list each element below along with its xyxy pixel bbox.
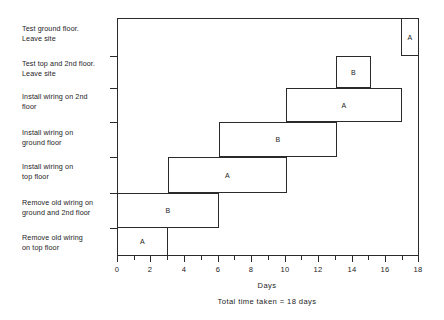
gantt-bar-label: B bbox=[276, 136, 281, 143]
x-tick-6 bbox=[218, 256, 219, 262]
task-label-test-ground-floor: Test ground floor. Leave site bbox=[22, 24, 118, 43]
row-tick-2 bbox=[110, 122, 118, 123]
x-tick-label-10: 10 bbox=[275, 265, 295, 274]
x-tick-label-16: 16 bbox=[375, 265, 395, 274]
x-tick-label-6: 6 bbox=[208, 265, 228, 274]
x-tick-label-14: 14 bbox=[342, 265, 362, 274]
x-tick-4 bbox=[184, 256, 185, 262]
gantt-bar-row6-A[interactable]: A bbox=[117, 228, 168, 256]
gantt-bar-row2-A[interactable]: A bbox=[286, 88, 402, 122]
task-label-install-wiring-2nd-floor: Install wiring on 2nd floor bbox=[22, 92, 118, 111]
x-tick-18 bbox=[418, 256, 419, 262]
gantt-bar-label: A bbox=[140, 238, 145, 245]
x-tick-minor-3 bbox=[167, 256, 168, 260]
x-tick-label-18: 18 bbox=[408, 265, 428, 274]
gantt-bar-label: B bbox=[166, 207, 171, 214]
x-tick-minor-11 bbox=[301, 256, 302, 260]
gantt-bar-row0-A[interactable]: A bbox=[401, 18, 419, 56]
x-tick-12 bbox=[318, 256, 319, 262]
x-tick-minor-9 bbox=[268, 256, 269, 260]
x-tick-16 bbox=[385, 256, 386, 262]
x-tick-label-4: 4 bbox=[174, 265, 194, 274]
task-label-install-wiring-ground-floor: Install wiring on ground floor bbox=[22, 128, 118, 147]
gantt-bar-label: A bbox=[342, 102, 347, 109]
x-axis-title: Days bbox=[237, 281, 297, 290]
row-tick-0 bbox=[110, 56, 118, 57]
gantt-bar-row4-A[interactable]: A bbox=[168, 157, 287, 193]
x-tick-10 bbox=[285, 256, 286, 262]
gantt-bar-label: A bbox=[408, 34, 413, 41]
x-tick-0 bbox=[117, 256, 118, 262]
x-tick-label-8: 8 bbox=[241, 265, 261, 274]
gantt-bar-row5-B[interactable]: B bbox=[117, 193, 219, 228]
row-tick-3 bbox=[110, 157, 118, 158]
x-tick-minor-13 bbox=[335, 256, 336, 260]
row-tick-1 bbox=[110, 88, 118, 89]
x-tick-label-12: 12 bbox=[308, 265, 328, 274]
x-tick-8 bbox=[251, 256, 252, 262]
gantt-chart: Test ground floor. Leave site Test top a… bbox=[0, 0, 444, 320]
gantt-bar-row1-B[interactable]: B bbox=[336, 56, 371, 88]
task-label-remove-old-wiring-ground-2nd: Remove old wiring on ground and 2nd floo… bbox=[22, 198, 122, 217]
task-label-remove-old-wiring-top-floor: Remove old wiring on top floor bbox=[22, 233, 118, 252]
gantt-bar-label: B bbox=[351, 69, 356, 76]
gantt-bar-row3-B[interactable]: B bbox=[219, 122, 337, 157]
chart-caption: Total time taken = 18 days bbox=[187, 297, 347, 306]
task-label-test-top-2nd-floor: Test top and 2nd floor. Leave site bbox=[22, 59, 122, 78]
x-tick-2 bbox=[150, 256, 151, 262]
gantt-bar-label: A bbox=[225, 172, 230, 179]
x-tick-minor-7 bbox=[234, 256, 235, 260]
x-tick-minor-17 bbox=[402, 256, 403, 260]
x-tick-minor-15 bbox=[368, 256, 369, 260]
x-tick-minor-5 bbox=[201, 256, 202, 260]
x-tick-minor-1 bbox=[134, 256, 135, 260]
x-tick-label-2: 2 bbox=[140, 265, 160, 274]
task-label-install-wiring-top-floor: Install wiring on top floor bbox=[22, 162, 118, 181]
x-tick-14 bbox=[352, 256, 353, 262]
x-tick-label-0: 0 bbox=[107, 265, 127, 274]
